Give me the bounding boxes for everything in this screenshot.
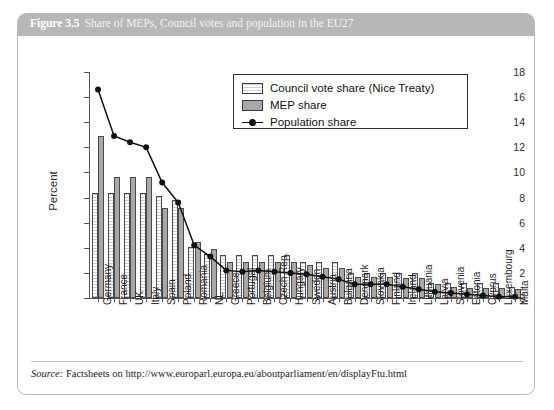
x-tick-label: Sweden [311, 269, 322, 305]
x-tick-mark [499, 298, 500, 302]
council-swatch-icon [242, 83, 263, 94]
x-tick-label: Poland [182, 274, 193, 305]
population-data-point [207, 254, 213, 260]
x-tick-mark [307, 298, 308, 302]
x-tick-mark [274, 298, 275, 302]
x-tick-mark [515, 298, 516, 302]
chart-legend: Council vote share (Nice Treaty) MEP sha… [233, 74, 468, 129]
x-tick-mark [467, 298, 468, 302]
source-text: Factsheets on http://www.europarl.europa… [66, 368, 407, 379]
x-tick-mark [355, 298, 356, 302]
x-tick-mark [98, 298, 99, 302]
x-tick-label: Czech Rep. [278, 253, 289, 305]
x-tick-label: Estonia [471, 272, 482, 305]
y-tick-mark [84, 198, 89, 199]
x-tick-label: Germany [102, 264, 113, 305]
source-note: Source: Factsheets on http://www.europar… [31, 368, 407, 379]
x-tick-mark [387, 298, 388, 302]
x-tick-label: Belgium [262, 269, 273, 305]
x-tick-mark [435, 298, 436, 302]
x-tick-mark [130, 298, 131, 302]
figure-header: Figure 3.5Share of MEPs, Council votes a… [18, 14, 534, 36]
x-tick-label: Bulgaria [343, 268, 354, 305]
legend-item-population: Population share [242, 114, 467, 130]
legend-label-council: Council vote share (Nice Treaty) [270, 82, 434, 94]
population-data-point [111, 133, 117, 139]
population-data-point [143, 144, 149, 150]
y-tick-mark [84, 172, 89, 173]
population-data-point [127, 139, 133, 145]
x-tick-label: Finland [391, 272, 402, 305]
x-tick-label: Italy [150, 287, 161, 305]
y-tick-mark [84, 72, 89, 73]
x-tick-mark [339, 298, 340, 302]
x-tick-label: Denmark [359, 264, 370, 305]
x-tick-label: Luxembourg [503, 249, 514, 305]
x-tick-label: Portugal [246, 268, 257, 305]
y-tick-mark [84, 273, 89, 274]
x-tick-label: Malta [519, 281, 530, 305]
legend-label-mep: MEP share [270, 99, 327, 111]
x-tick-mark [146, 298, 147, 302]
x-tick-label: Slovakia [375, 267, 386, 305]
y-axis-title: Percent [47, 171, 59, 211]
figure-number: Figure 3.5 [30, 17, 80, 29]
x-tick-mark [114, 298, 115, 302]
x-tick-mark [483, 298, 484, 302]
x-tick-label: Greece [230, 272, 241, 305]
x-tick-mark [419, 298, 420, 302]
y-tick-mark [84, 147, 89, 148]
x-tick-label: Lithuania [423, 264, 434, 305]
x-tick-mark [194, 298, 195, 302]
x-tick-mark [242, 298, 243, 302]
y-tick-mark [84, 223, 89, 224]
legend-item-mep: MEP share [242, 97, 467, 113]
population-data-point [95, 87, 101, 93]
population-data-point [175, 200, 181, 206]
x-tick-mark [162, 298, 163, 302]
figure-frame: Figure 3.5Share of MEPs, Council votes a… [17, 13, 535, 395]
x-tick-mark [290, 298, 291, 302]
x-tick-label: Slovenia [455, 267, 466, 305]
x-tick-label: Hungary [294, 267, 305, 305]
population-data-point [223, 267, 229, 273]
x-tick-mark [371, 298, 372, 302]
population-line-marker-icon [242, 117, 263, 128]
source-word: Source: [31, 368, 63, 379]
y-tick-mark [84, 97, 89, 98]
x-tick-label: Cyprus [487, 273, 498, 305]
x-tick-label: Ireland [407, 274, 418, 305]
x-tick-label: Spain [166, 279, 177, 305]
x-tick-label: Latvia [439, 278, 450, 305]
x-tick-mark [451, 298, 452, 302]
source-divider [31, 361, 523, 362]
legend-label-population: Population share [270, 116, 356, 128]
x-tick-mark [323, 298, 324, 302]
x-tick-mark [226, 298, 227, 302]
x-tick-mark [178, 298, 179, 302]
x-tick-label: France [118, 274, 129, 305]
x-tick-mark [403, 298, 404, 302]
population-data-point [159, 179, 165, 185]
mep-swatch-icon [242, 100, 263, 111]
x-tick-label: UK [134, 291, 145, 305]
x-tick-label: Austria [327, 274, 338, 305]
y-tick-mark [84, 122, 89, 123]
figure-caption: Share of MEPs, Council votes and populat… [85, 17, 354, 29]
x-tick-label: NL [214, 292, 225, 305]
x-tick-mark [258, 298, 259, 302]
x-tick-mark [210, 298, 211, 302]
y-tick-mark [84, 248, 89, 249]
legend-item-council: Council vote share (Nice Treaty) [242, 80, 467, 96]
y-tick-mark [84, 298, 89, 299]
population-data-point [191, 242, 197, 248]
x-tick-label: Romania [198, 265, 209, 305]
